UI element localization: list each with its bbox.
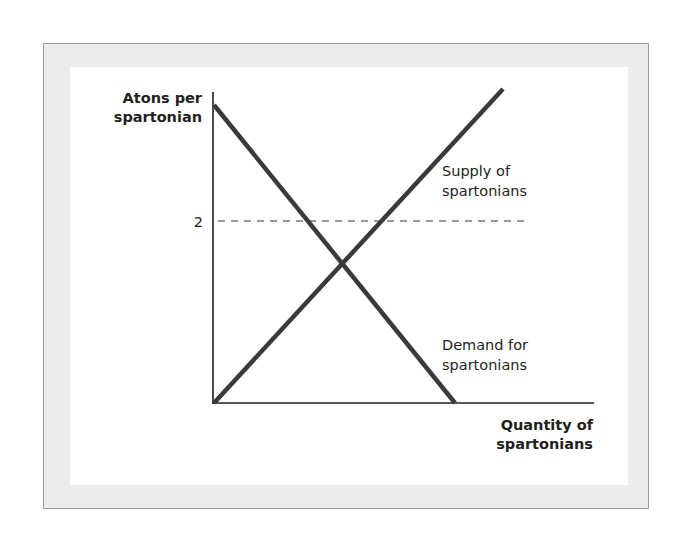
demand-curve <box>214 105 455 403</box>
demand-label-line2: spartonians <box>442 357 527 373</box>
x-axis-label-line2: spartonians <box>496 436 593 452</box>
supply-label-line2: spartonians <box>442 183 527 199</box>
y-axis-label-line2: spartonian <box>114 109 202 125</box>
supply-curve <box>214 89 503 403</box>
y-axis-label-line1: Atons per <box>123 90 203 106</box>
x-axis-label-line1: Quantity of <box>501 417 594 433</box>
y-tick-2: 2 <box>194 214 203 230</box>
supply-label-line1: Supply of <box>442 163 511 179</box>
supply-demand-chart: Atons per spartonian 2 Supply of sparton… <box>0 0 681 542</box>
demand-label-line1: Demand for <box>442 337 528 353</box>
